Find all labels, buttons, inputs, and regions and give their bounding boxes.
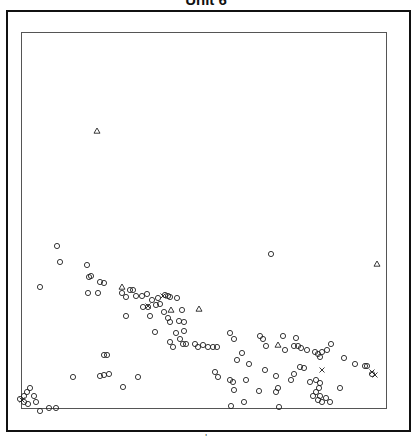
x-point	[320, 368, 325, 373]
circle-point	[179, 307, 184, 312]
circle-point	[200, 342, 205, 347]
circle-point	[260, 336, 265, 341]
circle-point	[37, 284, 42, 289]
x-axis-tick: '	[0, 432, 412, 441]
circle-point	[273, 373, 278, 378]
circle-point	[257, 333, 262, 338]
circle-point	[54, 243, 59, 248]
circle-point	[268, 251, 273, 256]
circle-point	[192, 341, 197, 346]
circle-point	[119, 290, 124, 295]
circle-point	[243, 377, 248, 382]
circle-point	[280, 333, 285, 338]
circle-point	[205, 344, 210, 349]
circle-point	[215, 374, 220, 379]
triangle-point	[374, 261, 380, 266]
triangle-point	[196, 306, 202, 311]
circle-point	[167, 339, 172, 344]
circle-point	[263, 343, 268, 348]
circle-point	[317, 380, 322, 385]
circle-point	[149, 297, 154, 302]
circle-point	[293, 335, 298, 340]
triangle-point	[94, 128, 100, 133]
triangle-point	[119, 284, 125, 289]
circle-point	[46, 405, 51, 410]
circle-point	[133, 293, 138, 298]
circle-point	[327, 399, 332, 404]
circle-point	[291, 371, 296, 376]
circle-point	[304, 347, 309, 352]
circle-point	[85, 290, 90, 295]
circle-point	[239, 350, 244, 355]
circle-point	[231, 336, 236, 341]
circle-point	[170, 344, 175, 349]
circle-point	[352, 361, 357, 366]
circle-point	[323, 395, 328, 400]
circle-point	[181, 328, 186, 333]
circle-point	[123, 313, 128, 318]
circle-point	[231, 387, 236, 392]
circle-point	[234, 357, 239, 362]
x-point	[161, 294, 166, 299]
circle-point	[328, 341, 333, 346]
circle-point	[324, 347, 329, 352]
circle-point	[123, 294, 128, 299]
circle-point	[288, 377, 293, 382]
circle-point	[37, 408, 42, 413]
circle-point	[341, 355, 346, 360]
circle-point	[120, 384, 125, 389]
circle-point	[195, 344, 200, 349]
circle-point	[140, 304, 145, 309]
circle-point	[337, 385, 342, 390]
circle-point	[228, 403, 233, 408]
circle-point	[161, 309, 166, 314]
triangle-point	[275, 342, 281, 347]
circle-point	[145, 304, 150, 309]
circle-point	[256, 388, 261, 393]
circle-point	[53, 405, 58, 410]
triangle-point	[168, 307, 174, 312]
circle-point	[173, 330, 178, 335]
circle-point	[262, 367, 267, 372]
scatter-points	[0, 0, 412, 441]
circle-point	[246, 361, 251, 366]
circle-point	[33, 399, 38, 404]
circle-point	[139, 293, 144, 298]
circle-point	[152, 329, 157, 334]
circle-point	[307, 379, 312, 384]
circle-point	[276, 404, 281, 409]
circle-point	[241, 399, 246, 404]
circle-point	[282, 347, 287, 352]
circle-point	[144, 291, 149, 296]
circle-point	[155, 295, 160, 300]
circle-point	[174, 295, 179, 300]
circle-point	[177, 336, 182, 341]
circle-point	[181, 319, 186, 324]
circle-point	[106, 371, 111, 376]
circle-point	[147, 313, 152, 318]
x-point	[373, 373, 378, 378]
circle-point	[310, 393, 315, 398]
circle-point	[176, 318, 181, 323]
circle-point	[57, 259, 62, 264]
circle-point	[84, 262, 89, 267]
circle-point	[31, 393, 36, 398]
circle-point	[27, 385, 32, 390]
circle-point	[162, 292, 167, 297]
circle-point	[95, 290, 100, 295]
circle-point	[212, 369, 217, 374]
circle-point	[227, 330, 232, 335]
circle-point	[70, 374, 75, 379]
circle-point	[135, 374, 140, 379]
